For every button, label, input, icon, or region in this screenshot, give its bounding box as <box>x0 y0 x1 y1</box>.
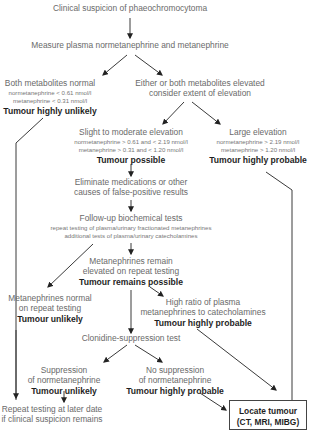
locate-tumour-box: Locate tumour (CT, MRI, MIBG) <box>229 400 307 430</box>
start-label: Clinical suspicion of phaeochromocytoma <box>20 4 240 14</box>
no-suppression-node: No suppression of normetanephrine Tumour… <box>120 366 230 396</box>
measure-label: Measure plasma normetanephrine and metan… <box>20 41 240 51</box>
normal-repeat-line-2: on repeat testing <box>0 304 100 314</box>
suppression-line-2: of normetanephrine <box>24 376 104 386</box>
followup-detail-1: repeat testing of plasma/urinary fractio… <box>31 224 231 233</box>
slight-verdict: Tumour possible <box>56 155 206 165</box>
slight-detail-2: metanephrine > 0.31 and < 1.20 nmol/l <box>56 146 206 155</box>
slight-node: Slight to moderate elevation normetaneph… <box>56 128 206 165</box>
suppression-node: Suppression of normetanephrine Tumour un… <box>24 366 104 396</box>
clonidine-node: Clonidine-suppression test <box>71 334 191 344</box>
suppression-verdict: Tumour unlikely <box>24 386 104 396</box>
slight-label: Slight to moderate elevation <box>56 128 206 138</box>
measure-node: Measure plasma normetanephrine and metan… <box>20 41 240 51</box>
elevated-line-2: consider extent of elevation <box>130 89 270 99</box>
high-ratio-line-2: metanephrines to catecholamines <box>138 308 268 318</box>
large-detail-1: normetanephrine > 2.19 nmol/l <box>206 138 310 147</box>
normal-repeat-verdict: Tumour unlikely <box>0 314 100 324</box>
no-suppression-line-2: of normetanephrine <box>120 376 230 386</box>
slight-detail-1: normetanephrine > 0.61 and < 2.19 nmol/l <box>56 138 206 147</box>
normal-node: Both metabolites normal normetanephrine … <box>0 79 100 116</box>
large-detail-2: metanephrine > 1.20 nmol/l <box>206 146 310 155</box>
no-suppression-verdict: Tumour highly probable <box>120 386 230 396</box>
normal-repeat-node: Metanephrines normal on repeat testing T… <box>0 294 100 324</box>
normal-detail-1: normetanephrine < 0.61 nmol/l <box>0 89 100 98</box>
large-verdict: Tumour highly probable <box>206 155 310 165</box>
large-label: Large elevation <box>206 128 310 138</box>
normal-label: Both metabolites normal <box>0 79 100 89</box>
eliminate-node: Eliminate medications or other causes of… <box>66 178 196 198</box>
locate-line-1: Locate tumour <box>230 406 306 417</box>
high-ratio-verdict: Tumour highly probable <box>138 318 268 328</box>
clonidine-label: Clonidine-suppression test <box>71 334 191 344</box>
normal-verdict: Tumour highly unlikely <box>0 106 100 116</box>
followup-label: Follow-up biochemical tests <box>31 214 231 224</box>
repeat-later-line-2: if clinical suspicion remains <box>0 415 104 425</box>
elevated-node: Either or both metabolites elevated cons… <box>130 79 270 99</box>
followup-node: Follow-up biochemical tests repeat testi… <box>31 214 231 241</box>
normal-detail-2: metanephrine < 0.31 nmol/l <box>0 97 100 106</box>
eliminate-line-2: causes of false-positive results <box>66 188 196 198</box>
start-node: Clinical suspicion of phaeochromocytoma <box>20 4 240 14</box>
repeat-later-node: Repeat testing at later date if clinical… <box>0 405 104 425</box>
followup-detail-2: additional tests of plasma/urinary catec… <box>31 232 231 241</box>
locate-line-2: (CT, MRI, MIBG) <box>230 417 306 428</box>
large-node: Large elevation normetanephrine > 2.19 n… <box>206 128 310 165</box>
high-ratio-node: High ratio of plasma metanephrines to ca… <box>138 298 268 328</box>
remain-line-2: elevated on repeat testing <box>71 267 191 277</box>
remain-node: Metanephrines remain elevated on repeat … <box>71 257 191 287</box>
remain-verdict: Tumour remains possible <box>71 277 191 287</box>
